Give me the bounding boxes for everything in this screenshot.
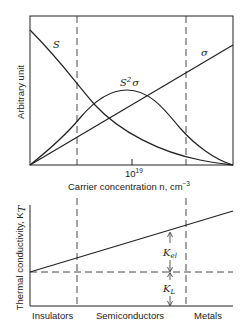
top-chart: S σ S2σ Arbitrary unit 1019 Carrier conc… xyxy=(15,16,233,192)
region-metals: Metals xyxy=(194,310,222,321)
total-conductivity-line xyxy=(30,211,233,272)
sigma-label: σ xyxy=(201,47,209,58)
top-x-axis-label: Carrier concentration n, cm−3 xyxy=(68,180,190,192)
top-y-axis-label: Arbitrary unit xyxy=(15,65,26,119)
S-label: S xyxy=(53,39,60,50)
S2sigma-curve xyxy=(30,90,233,165)
bottom-y-axis-label: Thermal conductivity, KT xyxy=(14,204,27,310)
figure: S σ S2σ Arbitrary unit 1019 Carrier conc… xyxy=(0,0,249,325)
bottom-chart: Kel KL Thermal conductivity, KT Insulato… xyxy=(14,198,233,321)
x-tick-label: 1019 xyxy=(125,167,143,179)
region-semiconductors: Semiconductors xyxy=(96,310,164,321)
region-insulators: Insulators xyxy=(32,310,73,321)
S2sigma-label: S2σ xyxy=(120,76,140,88)
kl-label: KL xyxy=(162,283,175,296)
kel-label: Kel xyxy=(162,247,177,260)
